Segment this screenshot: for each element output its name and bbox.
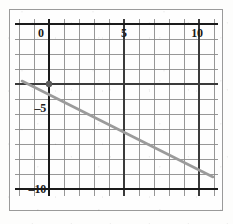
x-tick-label-5: 5 xyxy=(116,27,132,39)
x-tick-label-10: 10 xyxy=(186,27,208,39)
y-tick-label-minus-5: –5 xyxy=(20,102,46,114)
graph-figure: 0 5 10 –5 –10 xyxy=(0,0,233,224)
y-intercept-point xyxy=(46,81,52,87)
x-tick-label-0: 0 xyxy=(33,27,49,39)
y-tick-label-minus-10: –10 xyxy=(12,183,46,195)
